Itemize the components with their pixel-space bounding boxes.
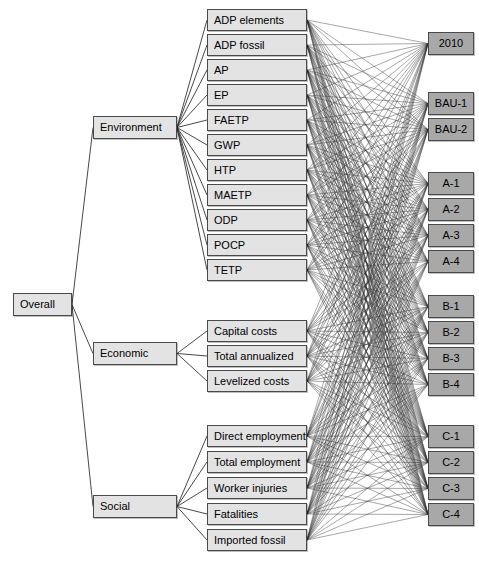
subcriterion-node-total-annualized[interactable]: Total annualized [207, 345, 307, 367]
criterion-node-environment[interactable]: Environment [93, 116, 177, 139]
node-label: 2010 [439, 38, 463, 49]
node-label: ADP fossil [214, 40, 265, 51]
node-label: ADP elements [214, 15, 284, 26]
node-label: Total annualized [214, 351, 294, 362]
edge-social-to-direct-employment [177, 436, 207, 507]
edge-social-to-total-employment [177, 462, 207, 507]
criterion-node-social[interactable]: Social [93, 495, 177, 518]
node-label: B-2 [442, 327, 459, 338]
option-node-c-2[interactable]: C-2 [428, 451, 474, 474]
node-label: GWP [214, 140, 240, 151]
subcriterion-node-capital-costs[interactable]: Capital costs [207, 320, 307, 342]
subcriterion-node-ep[interactable]: EP [207, 84, 307, 106]
node-label: ODP [214, 215, 238, 226]
option-node-a-1[interactable]: A-1 [428, 172, 474, 195]
node-label: Economic [100, 348, 148, 359]
option-node-a-3[interactable]: A-3 [428, 224, 474, 247]
option-node-bau-1[interactable]: BAU-1 [428, 92, 474, 115]
subcriterion-node-imported-fossil[interactable]: Imported fossil [207, 529, 307, 551]
option-node-a-2[interactable]: A-2 [428, 198, 474, 221]
subcriterion-node-worker-injuries[interactable]: Worker injuries [207, 477, 307, 499]
node-label: A-2 [442, 204, 459, 215]
option-node-c-1[interactable]: C-1 [428, 425, 474, 448]
node-label: A-3 [442, 230, 459, 241]
criterion-node-economic[interactable]: Economic [93, 342, 177, 365]
node-label: A-4 [442, 256, 459, 267]
subcriterion-node-fatalities[interactable]: Fatalities [207, 503, 307, 525]
option-node-c-4[interactable]: C-4 [428, 503, 474, 526]
option-node-b-1[interactable]: B-1 [428, 295, 474, 318]
subcriterion-node-htp[interactable]: HTP [207, 159, 307, 181]
goal-node-overall[interactable]: Overall [13, 293, 72, 316]
subcriterion-node-odp[interactable]: ODP [207, 209, 307, 231]
node-label: A-1 [442, 178, 459, 189]
subcriterion-node-faetp[interactable]: FAETP [207, 109, 307, 131]
edge-social-to-worker-injuries [177, 488, 207, 507]
node-label: Overall [20, 299, 55, 310]
node-label: Levelized costs [214, 376, 289, 387]
edge-environment-to-faetp [177, 120, 207, 128]
node-label: TETP [214, 265, 242, 276]
subcriterion-node-pocp[interactable]: POCP [207, 234, 307, 256]
subcriterion-node-levelized-costs[interactable]: Levelized costs [207, 370, 307, 392]
node-label: Social [100, 501, 130, 512]
node-label: C-2 [442, 457, 460, 468]
node-label: Worker injuries [214, 483, 287, 494]
edge-goal-to-social [72, 305, 93, 507]
edge-environment-to-ap [177, 70, 207, 128]
diagram-canvas: OverallEnvironmentEconomicSocialADP elem… [0, 0, 479, 562]
edge-economic-to-total-annualized [177, 354, 207, 357]
node-label: Capital costs [214, 326, 277, 337]
subcriterion-node-direct-employment[interactable]: Direct employment [207, 425, 307, 447]
option-node-a-4[interactable]: A-4 [428, 250, 474, 273]
node-label: Environment [100, 122, 162, 133]
node-label: MAETP [214, 190, 252, 201]
node-label: FAETP [214, 115, 249, 126]
node-label: POCP [214, 240, 245, 251]
edge-environment-to-pocp [177, 128, 207, 246]
subcriterion-node-tetp[interactable]: TETP [207, 259, 307, 281]
node-label: Fatalities [214, 509, 258, 520]
node-label: Total employment [214, 457, 300, 468]
edge-social-to-fatalities [177, 507, 207, 515]
edge-environment-to-odp [177, 128, 207, 221]
subcriterion-node-adp-elements[interactable]: ADP elements [207, 9, 307, 31]
node-label: BAU-2 [435, 124, 467, 135]
subcriterion-node-gwp[interactable]: GWP [207, 134, 307, 156]
node-label: Imported fossil [214, 535, 286, 546]
subcriterion-node-maetp[interactable]: MAETP [207, 184, 307, 206]
edge-goal-to-environment [72, 128, 93, 305]
node-label: BAU-1 [435, 98, 467, 109]
node-label: B-1 [442, 301, 459, 312]
subcriterion-node-ap[interactable]: AP [207, 59, 307, 81]
subcriterion-node-total-employment[interactable]: Total employment [207, 451, 307, 473]
option-node-b-2[interactable]: B-2 [428, 321, 474, 344]
node-label: AP [214, 65, 229, 76]
edge-environment-to-adp-fossil [177, 45, 207, 128]
option-node-c-3[interactable]: C-3 [428, 477, 474, 500]
option-node-b-3[interactable]: B-3 [428, 347, 474, 370]
edge-goal-to-economic [72, 305, 93, 354]
option-node-2010[interactable]: 2010 [428, 32, 474, 55]
option-node-bau-2[interactable]: BAU-2 [428, 118, 474, 141]
edge-economic-to-levelized-costs [177, 354, 207, 382]
node-label: C-3 [442, 483, 460, 494]
option-node-b-4[interactable]: B-4 [428, 373, 474, 396]
node-label: B-3 [442, 353, 459, 364]
node-label: C-4 [442, 509, 460, 520]
subcriterion-node-adp-fossil[interactable]: ADP fossil [207, 34, 307, 56]
node-label: C-1 [442, 431, 460, 442]
node-label: B-4 [442, 379, 459, 390]
edge-economic-to-capital-costs [177, 331, 207, 354]
node-label: HTP [214, 165, 236, 176]
node-label: EP [214, 90, 229, 101]
node-label: Direct employment [214, 431, 306, 442]
edge-social-to-imported-fossil [177, 507, 207, 541]
